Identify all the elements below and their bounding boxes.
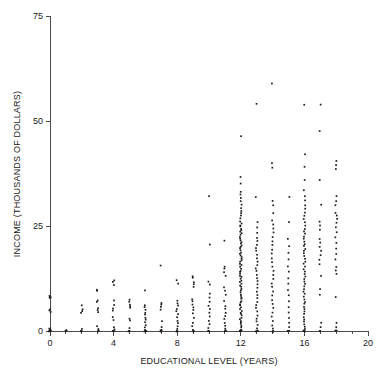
data-point [272, 266, 274, 268]
data-point [241, 241, 243, 243]
data-point [128, 330, 130, 332]
y-axis-tick-label: 50 [33, 116, 43, 126]
data-point [288, 221, 290, 223]
data-point [320, 250, 322, 252]
x-axis-tick-label: 0 [47, 338, 52, 348]
data-point [96, 325, 98, 327]
plot-svg: 0255075 048121620 EDUCATIONAL LEVEL (YEA… [0, 0, 387, 378]
data-point [272, 212, 274, 214]
data-point [191, 325, 193, 327]
data-point [304, 303, 306, 305]
data-point [335, 212, 337, 214]
data-point [319, 294, 321, 296]
data-point [193, 286, 195, 288]
data-point [225, 294, 227, 296]
data-point [239, 281, 241, 283]
data-point [256, 318, 258, 320]
data-point [192, 300, 194, 302]
data-point [239, 221, 241, 223]
data-point [303, 231, 305, 233]
data-point [319, 130, 321, 132]
data-point [240, 270, 242, 272]
data-point [288, 312, 290, 314]
data-point [112, 310, 114, 312]
data-point [192, 304, 194, 306]
data-point [66, 329, 68, 331]
scatter-chart: 0255075 048121620 EDUCATIONAL LEVEL (YEA… [0, 0, 387, 378]
data-point [240, 255, 242, 257]
data-point [240, 135, 242, 137]
data-point [336, 222, 338, 224]
data-point [223, 287, 225, 289]
data-point [287, 289, 289, 291]
data-point [255, 250, 257, 252]
data-point [256, 321, 258, 323]
data-point [336, 160, 338, 162]
data-point [177, 330, 179, 332]
data-point [304, 271, 306, 273]
data-point [271, 299, 273, 301]
data-point [271, 295, 273, 297]
data-point [129, 299, 131, 301]
data-point [225, 275, 227, 277]
data-point [272, 200, 274, 202]
data-point [271, 258, 273, 260]
data-point [304, 248, 306, 250]
data-point [271, 249, 273, 251]
data-point [208, 330, 210, 332]
data-point [161, 302, 163, 304]
data-point [129, 327, 131, 329]
data-point [241, 297, 243, 299]
data-point [288, 259, 290, 261]
data-point [241, 260, 243, 262]
data-point [304, 301, 306, 303]
data-point [239, 236, 241, 238]
data-point [319, 288, 321, 290]
data-point [335, 270, 337, 272]
data-point [273, 232, 275, 234]
data-point [241, 256, 243, 258]
x-axis-tick-label: 8 [175, 338, 180, 348]
data-point [161, 326, 163, 328]
data-point [144, 304, 146, 306]
data-point [239, 261, 241, 263]
data-point [97, 311, 99, 313]
data-point [272, 328, 274, 330]
data-point [191, 298, 193, 300]
data-point [240, 329, 242, 331]
data-point [177, 305, 179, 307]
data-point [193, 307, 195, 309]
data-point [272, 320, 274, 322]
data-point [303, 288, 305, 290]
data-point [128, 301, 130, 303]
data-point [241, 232, 243, 234]
data-point [80, 312, 82, 314]
data-point [303, 291, 305, 293]
data-point [257, 324, 259, 326]
data-point [256, 232, 258, 234]
data-point [209, 312, 211, 314]
data-point [223, 271, 225, 273]
data-point [208, 195, 210, 197]
data-point [304, 283, 306, 285]
data-point [177, 322, 179, 324]
data-point [239, 304, 241, 306]
data-point [271, 261, 273, 263]
data-point [255, 330, 257, 332]
data-point [177, 320, 179, 322]
data-point [303, 319, 305, 321]
data-point [304, 276, 306, 278]
data-point [240, 176, 242, 178]
data-point [288, 271, 290, 273]
data-point [209, 323, 211, 325]
data-point [240, 278, 242, 280]
data-point [239, 225, 241, 227]
data-point [271, 83, 273, 85]
data-point [240, 289, 242, 291]
data-point [319, 179, 321, 181]
data-point [255, 304, 257, 306]
data-point [272, 291, 274, 293]
data-point [144, 312, 146, 314]
data-point [319, 221, 321, 223]
data-point [271, 253, 273, 255]
